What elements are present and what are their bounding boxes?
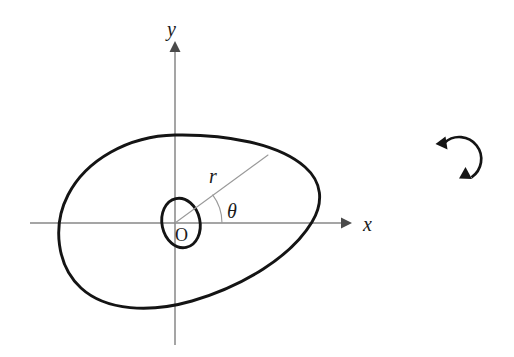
polar-coordinate-figure: y x r θ O (0, 0, 514, 357)
radius-label: r (209, 165, 217, 187)
rotation-circle-arc (445, 137, 482, 177)
origin-label: O (175, 225, 188, 245)
x-axis-label: x (362, 213, 372, 235)
rotation-symbol-group (436, 137, 482, 180)
y-axis-arrowhead (170, 41, 181, 52)
angle-theta-label: θ (227, 200, 237, 222)
closed-convex-curve (59, 135, 320, 308)
angle-theta-arc (213, 195, 223, 223)
polar-annotation-group (175, 155, 268, 223)
y-axis-label: y (165, 18, 176, 41)
rotation-arrowhead-lower-right (459, 167, 472, 179)
figure-canvas: y x r θ O (0, 0, 514, 357)
outer-curve-group (59, 135, 320, 308)
radius-ray-line (175, 155, 268, 223)
x-axis-arrowhead (341, 218, 352, 229)
axes-group (30, 41, 352, 345)
rotation-arrowhead-upper-left (436, 137, 448, 150)
